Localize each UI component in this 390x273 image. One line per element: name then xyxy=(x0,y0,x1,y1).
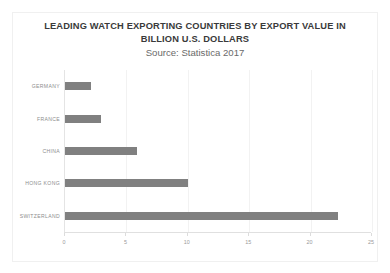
category-label: CHINA xyxy=(9,148,60,154)
x-tick-label: 20 xyxy=(307,239,313,245)
x-tick-mark xyxy=(187,233,188,236)
bar xyxy=(65,212,338,220)
x-tick-label: 10 xyxy=(184,239,190,245)
value-axis: 0510152025 xyxy=(64,232,371,255)
category-label: HONG KONG xyxy=(9,180,60,186)
gridline xyxy=(311,70,312,232)
x-tick-label: 0 xyxy=(63,239,66,245)
x-tick-label: 25 xyxy=(368,239,374,245)
plot-wrapper: GERMANYFRANCECHINAHONG KONGSWITZERLAND 0… xyxy=(13,70,379,255)
x-tick-label: 5 xyxy=(124,239,127,245)
gridline xyxy=(372,70,373,232)
chart-card: LEADING WATCH EXPORTING COUNTRIES BY EXP… xyxy=(12,12,378,262)
bar xyxy=(65,82,91,90)
x-tick-mark xyxy=(371,233,372,236)
x-tick-mark xyxy=(248,233,249,236)
category-label: GERMANY xyxy=(9,83,60,89)
bar xyxy=(65,115,101,123)
x-tick-label: 15 xyxy=(245,239,251,245)
x-tick-mark xyxy=(64,233,65,236)
x-tick-mark xyxy=(125,233,126,236)
category-label: FRANCE xyxy=(9,116,60,122)
gridline xyxy=(188,70,189,232)
category-label: SWITZERLAND xyxy=(9,213,60,219)
chart-title-block: LEADING WATCH EXPORTING COUNTRIES BY EXP… xyxy=(13,20,377,59)
bar xyxy=(65,147,137,155)
category-axis: GERMANYFRANCECHINAHONG KONGSWITZERLAND xyxy=(13,70,64,232)
chart-title: LEADING WATCH EXPORTING COUNTRIES BY EXP… xyxy=(13,20,377,45)
chart-subtitle: Source: Statistica 2017 xyxy=(13,46,377,59)
plot-area xyxy=(64,70,372,232)
gridline xyxy=(249,70,250,232)
x-tick-mark xyxy=(310,233,311,236)
bar xyxy=(65,179,188,187)
